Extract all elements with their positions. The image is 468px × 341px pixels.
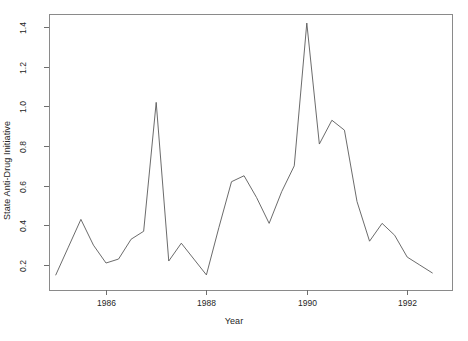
chart-container: State Anti-Drug Initiative Year 0.20.40.…	[0, 0, 468, 341]
axis-tick-marks	[44, 28, 408, 296]
data-series-group	[56, 23, 433, 275]
plot-frame	[50, 15, 453, 291]
plot-area	[0, 0, 468, 341]
series-line-0	[56, 23, 433, 275]
